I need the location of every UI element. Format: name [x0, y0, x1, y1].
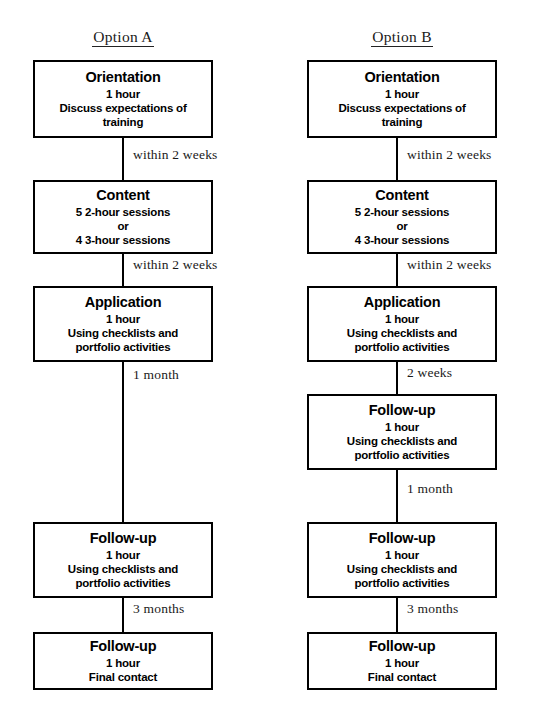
connector-b-4 [396, 470, 398, 522]
connector-a-1-label: within 2 weeks [133, 147, 218, 163]
connector-b-3-label: 2 weeks [407, 365, 452, 381]
node-b-followup-3[interactable]: Follow-up 1 hour Final contact [307, 632, 497, 690]
node-line: portfolio activities [354, 448, 449, 462]
node-line: Using checklists and [68, 326, 178, 340]
node-line: 1 hour [385, 656, 419, 670]
node-line: Using checklists and [68, 562, 178, 576]
node-a-application[interactable]: Application 1 hour Using checklists and … [33, 286, 213, 362]
node-line: Discuss expectations of [338, 101, 465, 115]
node-line: or [117, 219, 128, 233]
node-line: portfolio activities [354, 340, 449, 354]
node-b-followup-1[interactable]: Follow-up 1 hour Using checklists and po… [307, 394, 497, 470]
node-a-orientation[interactable]: Orientation 1 hour Discuss expectations … [33, 60, 213, 138]
node-line: 1 hour [385, 548, 419, 562]
node-line: portfolio activities [75, 576, 170, 590]
node-a-followup-1[interactable]: Follow-up 1 hour Using checklists and po… [33, 522, 213, 598]
node-line: Final contact [368, 670, 436, 684]
node-line: 1 hour [106, 656, 140, 670]
connector-b-5-label: 3 months [407, 601, 458, 617]
node-title: Application [85, 294, 162, 311]
node-a-followup-2[interactable]: Follow-up 1 hour Final contact [33, 632, 213, 690]
node-line: 5 2-hour sessions [355, 205, 449, 219]
connector-b-1-label: within 2 weeks [407, 147, 492, 163]
connector-a-2 [122, 254, 124, 286]
node-line: portfolio activities [75, 340, 170, 354]
node-title: Content [96, 187, 149, 204]
node-line: 4 3-hour sessions [355, 233, 449, 247]
node-line: 4 3-hour sessions [76, 233, 170, 247]
node-line: Final contact [89, 670, 157, 684]
node-title: Application [364, 294, 441, 311]
node-line: 5 2-hour sessions [76, 205, 170, 219]
connector-b-1 [396, 138, 398, 180]
option-a-heading: Option A [33, 28, 213, 46]
option-b-heading: Option B [307, 28, 497, 46]
connector-a-3 [122, 362, 124, 522]
node-title: Follow-up [369, 530, 436, 547]
option-a-column: Option A Orientation 1 hour Discuss expe… [33, 0, 213, 724]
node-b-content[interactable]: Content 5 2-hour sessions or 4 3-hour se… [307, 180, 497, 254]
node-title: Follow-up [90, 530, 157, 547]
connector-b-5 [396, 598, 398, 632]
connector-a-4-label: 3 months [133, 601, 184, 617]
connector-a-4 [122, 598, 124, 632]
connector-b-4-label: 1 month [407, 481, 453, 497]
node-line: or [396, 219, 407, 233]
node-title: Follow-up [90, 638, 157, 655]
node-line: 1 hour [106, 548, 140, 562]
node-a-content[interactable]: Content 5 2-hour sessions or 4 3-hour se… [33, 180, 213, 254]
node-line: Discuss expectations of [59, 101, 186, 115]
node-b-orientation[interactable]: Orientation 1 hour Discuss expectations … [307, 60, 497, 138]
option-b-column: Option B Orientation 1 hour Discuss expe… [307, 0, 497, 724]
node-line: Using checklists and [347, 326, 457, 340]
node-line: Using checklists and [347, 434, 457, 448]
connector-a-1 [122, 138, 124, 180]
node-line: training [103, 115, 144, 129]
node-line: portfolio activities [354, 576, 449, 590]
node-line: Using checklists and [347, 562, 457, 576]
node-title: Orientation [85, 69, 160, 86]
connector-b-3 [396, 362, 398, 394]
connector-b-2 [396, 254, 398, 286]
node-line: 1 hour [385, 420, 419, 434]
connector-a-2-label: within 2 weeks [133, 257, 218, 273]
node-line: 1 hour [385, 312, 419, 326]
node-title: Follow-up [369, 402, 436, 419]
connector-a-3-label: 1 month [133, 367, 179, 383]
option-a-heading-text: Option A [92, 28, 154, 47]
node-line: 1 hour [385, 87, 419, 101]
node-b-application[interactable]: Application 1 hour Using checklists and … [307, 286, 497, 362]
node-line: training [382, 115, 423, 129]
node-title: Follow-up [369, 638, 436, 655]
node-title: Orientation [364, 69, 439, 86]
node-line: 1 hour [106, 312, 140, 326]
option-b-heading-text: Option B [371, 28, 433, 47]
node-b-followup-2[interactable]: Follow-up 1 hour Using checklists and po… [307, 522, 497, 598]
node-title: Content [375, 187, 428, 204]
node-line: 1 hour [106, 87, 140, 101]
connector-b-2-label: within 2 weeks [407, 257, 492, 273]
flowchart-diagram: Option A Orientation 1 hour Discuss expe… [0, 0, 551, 724]
